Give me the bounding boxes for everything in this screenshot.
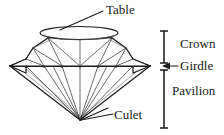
label-culet: Culet — [114, 107, 143, 122]
label-crown: Crown — [180, 36, 216, 51]
label-girdle: Girdle — [180, 58, 213, 73]
bracket-crown — [160, 31, 168, 63]
label-pavilion: Pavilion — [172, 83, 216, 98]
table-group — [40, 27, 118, 41]
label-table: Table — [106, 2, 135, 17]
diagram-canvas: Table Crown Girdle Pavilion Culet — [0, 0, 224, 135]
bracket-pavilion — [160, 70, 168, 128]
diamond-anatomy-diagram: Table Crown Girdle Pavilion Culet — [0, 0, 224, 135]
